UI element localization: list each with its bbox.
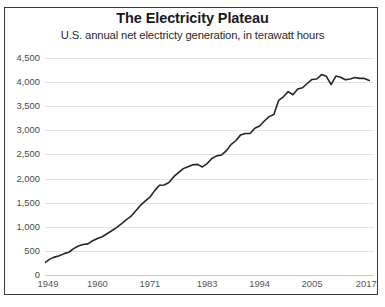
data-series-line <box>45 58 374 275</box>
y-axis-tick-label: 4,000 <box>0 77 40 86</box>
y-axis-tick-label: 1,500 <box>0 198 40 207</box>
x-axis-tick-label: 1949 <box>38 279 59 289</box>
chart-figure: The Electricity Plateau U.S. annual net … <box>0 0 385 307</box>
x-axis-tick-label: 1983 <box>197 279 218 289</box>
x-axis-tick-label: 1971 <box>139 279 160 289</box>
y-axis-tick-labels: 4,5004,0003,5003,0002,5002,0001,5001,000… <box>0 58 40 275</box>
chart-subtitle: U.S. annual net electricty generation, i… <box>0 29 385 41</box>
x-axis-tick-label: 2005 <box>302 279 323 289</box>
x-axis-tick-label: 1994 <box>249 279 270 289</box>
x-axis-baseline <box>45 275 374 276</box>
y-axis-tick-label: 4,500 <box>0 53 40 62</box>
y-axis-tick-label: 2,500 <box>0 149 40 158</box>
y-axis-tick-label: 3,500 <box>0 101 40 110</box>
y-axis-tick-label: 3,000 <box>0 125 40 134</box>
chart-title: The Electricity Plateau <box>0 10 385 26</box>
x-axis-tick-label: 2017 <box>356 279 377 289</box>
y-axis-tick-label: 2,000 <box>0 174 40 183</box>
series-polyline <box>45 75 369 263</box>
y-axis-tick-label: 1,000 <box>0 222 40 231</box>
x-axis-tick-labels: 1949196019711983199420052017 <box>45 279 374 295</box>
clipped-text-fragment <box>0 0 385 6</box>
x-axis-tick-label: 1960 <box>87 279 108 289</box>
y-axis-tick-label: 500 <box>0 246 40 255</box>
y-axis-tick-label: 0 <box>0 270 40 279</box>
